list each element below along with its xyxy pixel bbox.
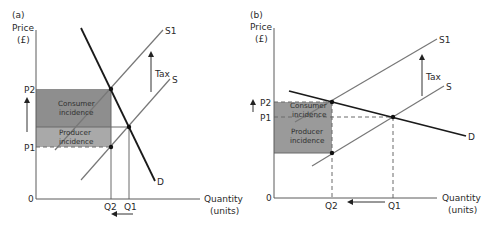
x-axis-unit: (units)	[210, 206, 239, 216]
consumer-incidence-label-1: Consumer	[290, 101, 327, 110]
origin-label: 0	[28, 194, 34, 204]
tax-label: Tax	[425, 72, 442, 82]
x-axis-label: Quantity	[204, 194, 244, 204]
d-label: D	[157, 177, 164, 187]
new-equilibrium-point	[109, 87, 113, 91]
y-axis-unit: (£)	[17, 35, 30, 45]
s1-label: S1	[439, 35, 450, 45]
price-rise-arrow-head-icon	[250, 99, 256, 105]
consumer-incidence-label-1: Consumer	[58, 99, 95, 108]
y-axis-label: Price	[250, 22, 272, 32]
s-label: S	[172, 75, 178, 85]
panel-a: (a) Price (£) P2 P1 0 Q2 Q1 Quantity (un…	[12, 10, 244, 217]
original-equilibrium-point	[391, 115, 395, 119]
origin-label: 0	[266, 193, 272, 203]
q2-label: Q2	[104, 202, 117, 212]
panel-label: (a)	[12, 10, 25, 20]
price-rise-arrow-head-icon	[24, 97, 30, 103]
tax-arrow-head-icon	[148, 51, 154, 57]
quantity-fall-arrow-head-icon	[347, 199, 353, 205]
consumer-incidence-label-2: incidence	[292, 110, 327, 119]
tax-label: Tax	[154, 69, 171, 79]
s-label: S	[446, 82, 452, 92]
q1-label: Q1	[388, 201, 401, 211]
original-equilibrium-point	[127, 125, 131, 129]
producer-incidence-label-1: Producer	[291, 127, 323, 136]
p1-label: P1	[24, 143, 35, 153]
p2-label: P2	[260, 98, 271, 108]
consumer-incidence-label-2: incidence	[59, 108, 94, 117]
q2-label: Q2	[325, 201, 338, 211]
y-axis-unit: (£)	[255, 34, 268, 44]
producer-incidence-label-2: incidence	[59, 137, 94, 146]
producer-incidence-label-1: Producer	[59, 128, 91, 137]
new-equilibrium-point	[330, 100, 334, 104]
producer-price-point	[330, 151, 334, 155]
x-axis-unit: (units)	[448, 205, 477, 215]
q1-label: Q1	[124, 202, 137, 212]
s1-label: S1	[165, 26, 176, 36]
y-axis-label: Price	[12, 23, 34, 33]
producer-incidence-label-2: incidence	[290, 136, 325, 145]
tax-incidence-diagram: (a) Price (£) P2 P1 0 Q2 Q1 Quantity (un…	[0, 0, 488, 229]
d-label: D	[468, 132, 475, 142]
panel-label: (b)	[250, 10, 263, 20]
producer-price-point	[109, 145, 113, 149]
x-axis-label: Quantity	[442, 193, 482, 203]
tax-arrow-head-icon	[419, 54, 425, 60]
p2-label: P2	[24, 85, 35, 95]
p1-label: P1	[260, 113, 271, 123]
panel-b: (b) Price (£) P2 P1 0 Q2 Q1 Quantity (un…	[250, 10, 482, 215]
